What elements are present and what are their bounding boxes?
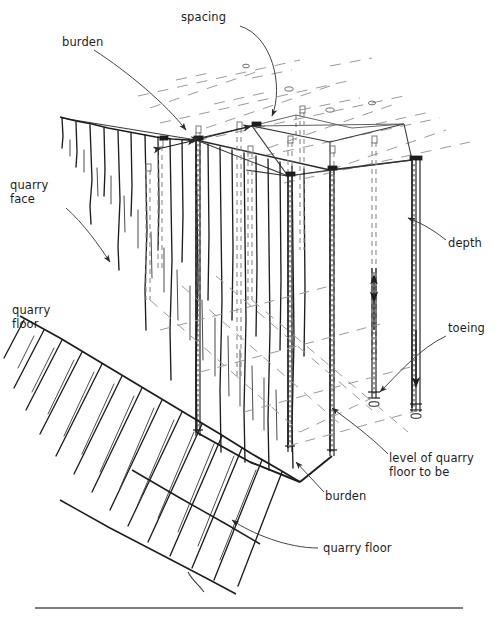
label-spacing: spacing	[181, 11, 226, 25]
label-quarry-face-line1: quarry	[10, 179, 48, 193]
leader-burden-top	[94, 50, 186, 130]
quarry-face-texture	[70, 140, 288, 448]
quarry-blasting-diagram: spacing burden quarry face quarry floor …	[0, 0, 495, 619]
label-future-floor-line1: level of quarry	[389, 452, 474, 466]
label-quarry-floor-left-line2: floor	[12, 318, 39, 332]
label-depth: depth	[448, 237, 482, 251]
label-toeing: toeing	[448, 322, 485, 336]
label-future-floor-line2: floor to be	[389, 466, 449, 480]
far-hole-collars	[243, 64, 376, 112]
hole-toe-marks	[193, 392, 422, 450]
quarry-floor-secondary-ridge	[60, 470, 260, 594]
label-burden-top: burden	[62, 36, 103, 50]
drill-holes-solid	[196, 140, 420, 456]
label-quarry-face-line2: face	[10, 193, 35, 207]
diagram-canvas	[0, 0, 495, 619]
leader-future-floor	[332, 408, 388, 454]
leader-spacing	[240, 26, 277, 116]
toe-arrows	[374, 300, 416, 386]
drill-hole-charge-columns	[198, 144, 414, 452]
label-burden-bottom: burden	[325, 490, 366, 504]
leader-toeing	[380, 336, 446, 392]
leader-quarry-face	[66, 208, 110, 262]
label-quarry-floor-left-line1: quarry	[12, 304, 50, 318]
leader-quarry-floor-bottom	[232, 520, 318, 548]
label-quarry-floor-bottom: quarry floor	[323, 542, 392, 556]
